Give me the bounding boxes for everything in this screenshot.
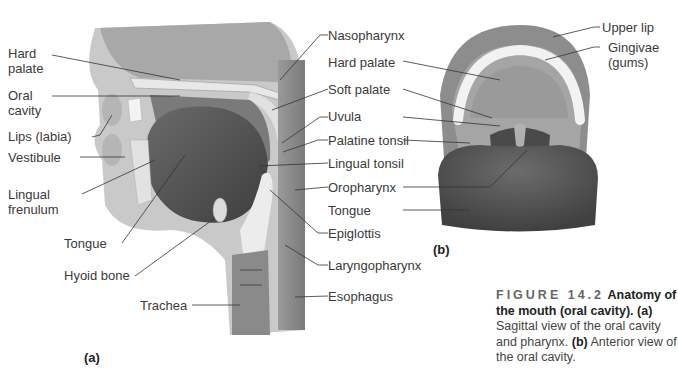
label-hard-palate-a: Hardpalate	[8, 46, 43, 76]
label-palatine-tonsil: Palatine tonsil	[328, 133, 409, 148]
label-vestibule: Vestibule	[8, 150, 61, 165]
label-lingual-tonsil: Lingual tonsil	[328, 156, 404, 171]
label-uvula: Uvula	[328, 109, 361, 124]
label-trachea: Trachea	[140, 298, 187, 313]
label-gingivae: Gingivae(gums)	[608, 40, 659, 70]
label-nasopharynx: Nasopharynx	[328, 28, 405, 43]
label-esophagus: Esophagus	[328, 289, 393, 304]
label-tongue-a: Tongue	[64, 236, 107, 251]
anterior-view	[438, 25, 598, 232]
label-soft-palate: Soft palate	[328, 82, 390, 97]
label-oropharynx: Oropharynx	[328, 180, 396, 195]
figure-number: FIGURE 14.2	[496, 288, 604, 302]
label-hard-palate-b: Hard palate	[328, 55, 395, 70]
label-epiglottis: Epiglottis	[328, 226, 381, 241]
label-upper-lip: Upper lip	[602, 20, 654, 35]
figure-caption: FIGURE 14.2 Anatomy of the mouth (oral c…	[496, 288, 678, 366]
label-laryngopharynx: Laryngopharynx	[328, 258, 421, 273]
label-hyoid-bone: Hyoid bone	[64, 268, 130, 283]
caption-b-tag: (b)	[572, 335, 588, 349]
caption-a-tag: (a)	[637, 304, 652, 318]
label-oral-cavity: Oralcavity	[8, 88, 41, 118]
panel-b-tag: (b)	[433, 242, 450, 257]
panel-a-tag: (a)	[84, 350, 100, 365]
label-lingual-frenulum: Lingualfrenulum	[8, 187, 59, 217]
label-lips: Lips (labia)	[8, 129, 72, 144]
label-tongue-b: Tongue	[328, 203, 371, 218]
